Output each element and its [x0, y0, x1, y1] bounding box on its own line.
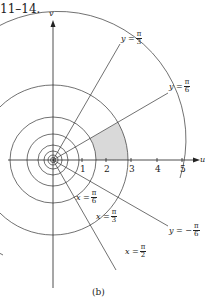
label-y-pi-6: y =π6 [169, 79, 190, 94]
label-x-pi-2: x =π2 [125, 244, 146, 259]
circle-8-arc [0, 11, 186, 255]
v-axis-arrow-icon [51, 20, 56, 27]
tick-1: 1 [80, 165, 86, 174]
label-y-pi-3: y =π3 [121, 31, 142, 46]
v-axis-label: v [49, 10, 54, 18]
u-axis-label: u [200, 156, 205, 164]
tick-2: 2 [104, 165, 110, 174]
tick-4: 4 [155, 165, 161, 174]
figure-caption: (b) [92, 287, 105, 297]
label-y-neg-pi-6: y = −π6 [169, 223, 200, 238]
tick-5: 5 [180, 165, 186, 174]
u-axis-arrow-icon [193, 158, 200, 163]
label-x-pi-6: x =π6 [76, 190, 97, 205]
polar-mapping-diagram [0, 0, 207, 305]
tick-3: 3 [129, 165, 135, 174]
label-x-pi-3: x =π3 [96, 209, 117, 224]
